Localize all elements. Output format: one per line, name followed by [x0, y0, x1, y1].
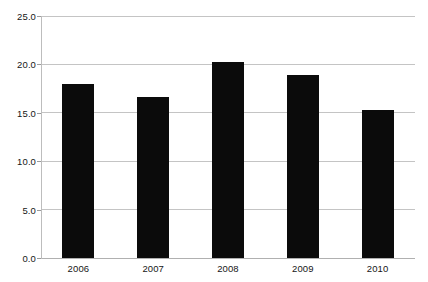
y-tick-label: 25.0 — [17, 11, 36, 22]
bar-chart: 0.05.010.015.020.025.0 20062007200820092… — [0, 0, 428, 282]
bar-2007[interactable] — [137, 97, 169, 258]
x-tick-label-2009: 2009 — [273, 263, 333, 274]
bar-2006[interactable] — [62, 84, 94, 258]
y-tick-label: 20.0 — [17, 59, 36, 70]
y-tick-label: 5.0 — [22, 205, 36, 216]
gridline-25-0 — [41, 16, 415, 17]
y-tick-label: 10.0 — [17, 156, 36, 167]
x-tick-label-2007: 2007 — [123, 263, 183, 274]
x-tick-label-2008: 2008 — [198, 263, 258, 274]
y-tick-label: 15.0 — [17, 108, 36, 119]
bar-2008[interactable] — [212, 62, 244, 258]
y-tick-label: 0.0 — [22, 253, 36, 264]
x-tick-label-2010: 2010 — [348, 263, 408, 274]
x-tick-label-2006: 2006 — [48, 263, 108, 274]
y-axis-line — [41, 16, 42, 259]
bar-2010[interactable] — [362, 110, 394, 258]
bar-2009[interactable] — [287, 75, 319, 258]
plot-area — [41, 16, 415, 258]
